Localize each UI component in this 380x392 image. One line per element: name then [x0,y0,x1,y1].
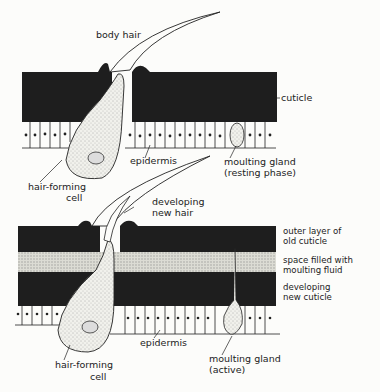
label-space-fluid-line2: moulting fluid [283,265,343,275]
cell-nucleus [88,152,104,164]
label-space-fluid-line1: space filled with [283,255,353,265]
label-hair-forming-cell-line1: hair-forming [28,182,86,192]
label-outer-layer-line2: old cuticle [283,236,327,246]
label-moulting-gland-line1: moulting gland [224,157,296,167]
label-body-hair: body hair [96,30,141,40]
label-new-cuticle-line2: new cuticle [283,292,332,302]
label-epidermis: epidermis [130,156,177,166]
body-hair [110,12,220,72]
label-moulting-gland-active-line2: (active) [209,365,245,375]
label-cuticle: cuticle [281,93,312,103]
moulting-diagram: body hair cuticle epidermis hair-forming… [0,0,380,392]
new-cuticle-layer [18,272,276,306]
old-cuticle-layer [18,221,100,252]
moulting-fluid-space [18,252,276,272]
label-hair-forming-cell-active-line2: cell [90,372,106,382]
label-hair-forming-cell-line2: cell [66,193,82,203]
label-epidermis-active: epidermis [140,338,187,348]
label-new-cuticle-line1: developing [283,282,331,292]
label-developing-new-hair-line2: new hair [152,208,193,218]
label-moulting-gland-active-line1: moulting gland [209,354,281,364]
label-moulting-gland-line2: (resting phase) [224,168,296,178]
moulting-gland-resting [230,123,244,147]
label-hair-forming-cell-active-line1: hair-forming [55,360,113,370]
label-outer-layer-line1: outer layer of [283,226,341,236]
label-developing-new-hair-line1: developing [152,197,205,207]
